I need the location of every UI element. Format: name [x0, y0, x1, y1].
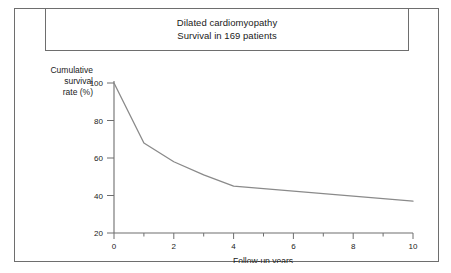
- y-axis-title-line-3: rate (%): [63, 87, 93, 97]
- x-axis-tick-labels: 0 2 4 6 8 10: [112, 242, 418, 251]
- x-axis-title: Follow-up years: [233, 256, 293, 263]
- x-tick-label-10: 10: [409, 242, 418, 251]
- x-tick-label-4: 4: [231, 242, 236, 251]
- y-tick-label-20: 20: [94, 229, 103, 238]
- plot-area: 100 80 60 40 20: [15, 51, 440, 263]
- y-axis-title-line-1: Cumulative: [50, 65, 93, 75]
- figure-frame: Dilated cardiomyopathy Survival in 169 p…: [14, 8, 439, 262]
- chart-title-line-1: Dilated cardiomyopathy: [177, 17, 277, 30]
- y-axis-ticks: [107, 83, 114, 233]
- x-tick-label-2: 2: [172, 242, 177, 251]
- y-tick-label-60: 60: [94, 154, 103, 163]
- x-tick-label-0: 0: [112, 242, 117, 251]
- y-tick-label-40: 40: [94, 192, 103, 201]
- y-tick-label-80: 80: [94, 117, 103, 126]
- survival-curve: [114, 83, 413, 201]
- y-axis-title-line-2: survival: [64, 76, 93, 86]
- x-tick-label-6: 6: [291, 242, 296, 251]
- chart-title-line-2: Survival in 169 patients: [177, 30, 276, 43]
- y-axis-tick-labels: 100 80 60 40 20: [90, 79, 104, 238]
- survival-chart-svg: 100 80 60 40 20: [15, 51, 440, 263]
- chart-title-band: Dilated cardiomyopathy Survival in 169 p…: [45, 9, 409, 51]
- y-axis-title: Cumulative survival rate (%): [50, 65, 93, 97]
- x-tick-label-8: 8: [351, 242, 356, 251]
